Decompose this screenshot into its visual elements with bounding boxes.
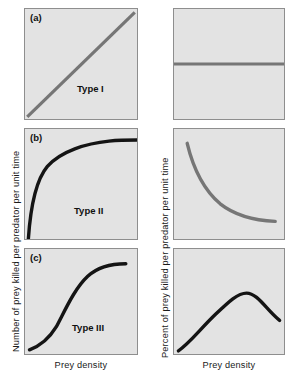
panel-b-right-plot bbox=[174, 129, 284, 239]
type-iii-curve bbox=[29, 264, 125, 350]
type-i-annotation: Type I bbox=[77, 83, 104, 94]
panel-b-right-percent bbox=[173, 128, 285, 240]
panel-label-c: (c) bbox=[30, 252, 42, 263]
right-y-axis-label: Percent of prey killed per predator per … bbox=[160, 157, 170, 358]
panel-label-b: (b) bbox=[30, 132, 42, 143]
type-ii-percent-curve bbox=[187, 143, 275, 221]
panel-c-plot bbox=[25, 249, 137, 354]
type-ii-curve bbox=[28, 140, 137, 239]
right-x-axis-label: Prey density bbox=[173, 360, 285, 370]
left-y-axis-label: Number of prey killed per predator per u… bbox=[11, 151, 21, 352]
panel-c-right-percent bbox=[173, 248, 285, 355]
panel-b-type-ii bbox=[24, 128, 138, 240]
type-iii-percent-curve bbox=[178, 293, 279, 351]
panel-a-right-plot bbox=[174, 9, 284, 119]
panel-c-right-plot bbox=[174, 249, 284, 354]
panel-a-plot bbox=[25, 9, 137, 119]
functional-response-figure: Number of prey killed per predator per u… bbox=[0, 0, 290, 378]
panel-a-type-i bbox=[24, 8, 138, 120]
type-i-curve bbox=[27, 12, 135, 117]
panel-b-plot bbox=[25, 129, 137, 239]
panel-label-a: (a) bbox=[30, 12, 42, 23]
type-iii-annotation: Type III bbox=[72, 322, 104, 333]
panel-a-right-percent bbox=[173, 8, 285, 120]
left-x-axis-label: Prey density bbox=[24, 360, 138, 370]
panel-c-type-iii bbox=[24, 248, 138, 355]
type-ii-annotation: Type II bbox=[74, 205, 103, 216]
